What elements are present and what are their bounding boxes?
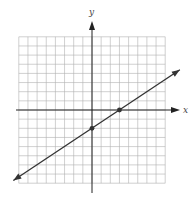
plotted-line bbox=[13, 70, 180, 181]
line-arrow-icon bbox=[172, 70, 180, 77]
y-axis-arrow-icon bbox=[89, 21, 95, 30]
line-arrow-icon bbox=[13, 174, 21, 181]
coordinate-graph: x y bbox=[0, 0, 194, 201]
plot-line-group bbox=[13, 70, 180, 181]
data-point bbox=[90, 126, 95, 131]
x-axis-arrow-icon bbox=[171, 107, 180, 113]
data-point bbox=[117, 108, 122, 113]
y-axis-label: y bbox=[88, 7, 95, 17]
x-axis-label: x bbox=[183, 105, 188, 115]
